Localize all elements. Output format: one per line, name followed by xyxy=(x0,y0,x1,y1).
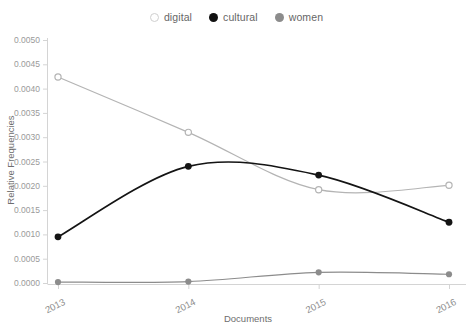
x-tick-label: 2016 xyxy=(434,296,458,315)
data-point-women-2013[interactable] xyxy=(55,279,61,285)
y-tick-label: 0.0035 xyxy=(14,108,40,118)
y-axis: 0.00000.00050.00100.00150.00200.00250.00… xyxy=(5,35,48,288)
y-tick-label: 0.0040 xyxy=(14,84,40,94)
y-tick-label: 0.0010 xyxy=(14,229,40,239)
y-tick-group: 0.00000.00050.00100.00150.00200.00250.00… xyxy=(14,35,48,288)
data-point-digital-2014[interactable] xyxy=(185,129,191,135)
x-axis: 2013201420152016 Documents xyxy=(43,285,466,325)
y-axis-title: Relative Frequencies xyxy=(5,115,16,204)
x-tick-label: 2014 xyxy=(173,296,197,315)
marker-group xyxy=(55,74,453,285)
x-tick-label: 2015 xyxy=(304,296,328,315)
data-point-women-2015[interactable] xyxy=(316,269,322,275)
data-point-cultural-2016[interactable] xyxy=(446,219,453,226)
data-point-digital-2016[interactable] xyxy=(446,182,452,188)
y-tick-label: 0.0000 xyxy=(14,278,40,288)
data-point-digital-2013[interactable] xyxy=(55,74,61,80)
y-tick-label: 0.0015 xyxy=(14,205,40,215)
data-point-cultural-2013[interactable] xyxy=(55,233,62,240)
x-axis-title: Documents xyxy=(224,313,272,324)
y-tick-label: 0.0030 xyxy=(14,132,40,142)
data-point-cultural-2014[interactable] xyxy=(185,163,192,170)
y-tick-label: 0.0050 xyxy=(14,35,40,45)
series-line-women xyxy=(58,272,449,282)
y-tick-label: 0.0005 xyxy=(14,254,40,264)
y-tick-label: 0.0045 xyxy=(14,59,40,69)
y-tick-label: 0.0020 xyxy=(14,181,40,191)
series-line-cultural xyxy=(58,162,449,237)
line-chart: digital cultural women 0.00000.00050.001… xyxy=(0,0,473,331)
data-point-women-2014[interactable] xyxy=(185,278,191,284)
data-point-digital-2015[interactable] xyxy=(316,187,322,193)
series-line-digital xyxy=(58,77,449,193)
series-group xyxy=(58,77,449,282)
data-point-women-2016[interactable] xyxy=(446,271,452,277)
plot-area: 0.00000.00050.00100.00150.00200.00250.00… xyxy=(0,0,473,331)
x-tick-label: 2013 xyxy=(43,296,67,315)
data-point-cultural-2015[interactable] xyxy=(315,172,322,179)
x-tick-group: 2013201420152016 xyxy=(43,285,458,316)
y-tick-label: 0.0025 xyxy=(14,157,40,167)
